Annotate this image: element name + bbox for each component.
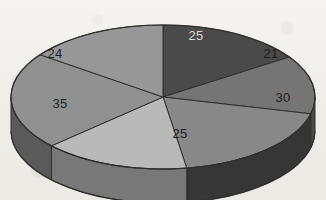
pie-slice-value-label: 21 bbox=[264, 46, 279, 61]
pie-slice-value-label: 30 bbox=[276, 90, 291, 105]
pie-slice-value-label: 24 bbox=[48, 46, 63, 61]
pie-chart-figure: 252130253524 bbox=[0, 0, 326, 200]
pie-slice-value-label: 25 bbox=[189, 28, 204, 43]
pie-chart-svg: 252130253524 bbox=[0, 0, 326, 200]
pie-slice-value-label: 25 bbox=[173, 126, 188, 141]
pie-slice-value-label: 35 bbox=[53, 96, 68, 111]
